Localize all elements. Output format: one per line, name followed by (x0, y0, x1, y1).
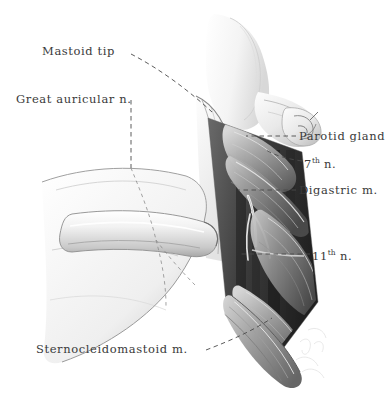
label-eleventh-nerve: 11th n. (312, 249, 352, 262)
label-sternocleidomastoid-muscle: Sternocleidomastoid m. (36, 344, 188, 356)
label-seventh-nerve-suffix: n. (324, 157, 336, 171)
label-parotid-gland: Parotid gland (299, 131, 385, 143)
label-eleventh-nerve-suffix: n. (340, 249, 352, 263)
label-mastoid-tip: Mastoid tip (42, 46, 115, 58)
label-seventh-nerve-ordinal: th (312, 156, 320, 165)
label-great-auricular-nerve: Great auricular n. (16, 94, 131, 106)
label-eleventh-nerve-ordinal: th (328, 248, 336, 257)
label-seventh-nerve-number: 7 (304, 157, 312, 171)
label-eleventh-nerve-number: 11 (312, 249, 328, 263)
label-seventh-nerve: 7th n. (304, 157, 336, 170)
label-digastric-muscle: Digastric m. (299, 185, 378, 197)
